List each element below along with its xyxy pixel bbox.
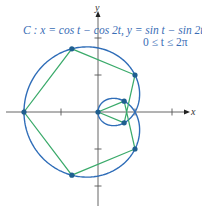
parameter-range: 0 ≤ t ≤ 2π: [143, 36, 188, 48]
curve-point: [21, 109, 26, 114]
curve-point: [69, 173, 74, 178]
x-axis-arrow-icon: [184, 110, 190, 115]
curve-point: [132, 72, 137, 77]
x-axis-label: x: [191, 106, 195, 117]
curve-point: [95, 109, 100, 114]
curve-point: [132, 146, 137, 151]
curve-point: [69, 46, 74, 51]
y-axis-label: y: [95, 2, 99, 13]
curve-point: [122, 99, 127, 104]
curve-caption: C : x = cos t − cos 2t, y = sin t − sin …: [23, 24, 202, 36]
curve-point: [122, 120, 127, 125]
